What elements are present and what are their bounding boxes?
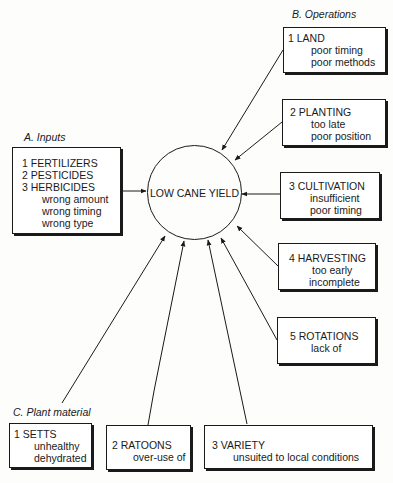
inputs-sub-type: wrong type [22,217,120,229]
plant-variety-box: 3 VARIETY unsuited to local conditions [204,425,373,469]
inputs-item-pesticides: 2 PESTICIDES [22,169,120,181]
inputs-item-fertilizers: 1 FERTILIZERS [22,157,120,169]
cultivation-sub-2: poor timing [289,204,379,216]
setts-sub-1: unhealthy [14,440,91,452]
group-title-plant-material: C. Plant material [13,406,91,418]
ratoons-sub-1: over-use of [112,451,190,463]
operations-harvesting-box: 4 HARVESTING too early incomplete [278,243,376,290]
operations-rotations-box: 5 ROTATIONS lack of [277,317,376,364]
central-effect-label: LOW CANE YIELD [150,187,239,199]
inputs-item-herbicides: 3 HERBICIDES [22,181,120,193]
inputs-sub-timing: wrong timing [22,205,120,217]
land-sub-1: poor timing [288,44,385,56]
land-head: 1 LAND [288,32,385,44]
group-title-operations: B. Operations [292,8,356,20]
inputs-sub-amount: wrong amount [22,193,120,205]
plant-ratoons-box: 2 RATOONS over-use of [106,425,191,470]
cause-effect-diagram: LOW CANE YIELD A. Inputs 1 FERTILIZERS 2… [0,0,393,483]
cultivation-head: 3 CULTIVATION [289,180,379,192]
harvesting-sub-1: too early [289,264,375,276]
planting-sub-1: too late [290,118,385,130]
setts-head: 1 SETTS [14,428,91,440]
operations-land-box: 1 LAND poor timing poor methods [283,27,386,73]
land-sub-2: poor methods [288,56,385,68]
setts-sub-2: dehydrated [14,452,91,464]
variety-head: 3 VARIETY [212,439,372,451]
rotations-sub-1: lack of [290,342,375,354]
inputs-box: 1 FERTILIZERS 2 PESTICIDES 3 HERBICIDES … [12,147,121,234]
ratoons-head: 2 RATOONS [112,439,190,451]
variety-sub-1: unsuited to local conditions [212,451,372,463]
planting-head: 2 PLANTING [290,106,385,118]
operations-cultivation-box: 3 CULTIVATION insufficient poor timing [280,172,380,219]
harvesting-head: 4 HARVESTING [289,252,375,264]
cultivation-sub-1: insufficient [289,192,379,204]
plant-setts-box: 1 SETTS unhealthy dehydrated [9,423,92,468]
group-title-inputs: A. Inputs [24,131,65,143]
harvesting-sub-2: incomplete [289,276,375,288]
operations-planting-box: 2 PLANTING too late poor position [282,99,386,146]
planting-sub-2: poor position [290,130,385,142]
central-effect-node: LOW CANE YIELD [147,145,242,240]
rotations-head: 5 ROTATIONS [290,330,375,342]
